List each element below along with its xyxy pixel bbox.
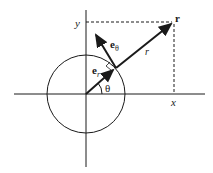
label-y-axis: y bbox=[74, 17, 80, 29]
label-angle-theta: θ bbox=[105, 82, 110, 94]
polar-coordinates-diagram: y x r r θ eθ er bbox=[0, 0, 213, 173]
position-vector-r bbox=[116, 24, 171, 68]
angle-arc-theta bbox=[98, 83, 102, 94]
label-point-r: r bbox=[175, 12, 180, 24]
label-radius-r: r bbox=[145, 46, 149, 57]
label-x-axis: x bbox=[170, 96, 176, 108]
label-e-theta: eθ bbox=[110, 38, 119, 53]
label-e-r: er bbox=[92, 64, 101, 79]
